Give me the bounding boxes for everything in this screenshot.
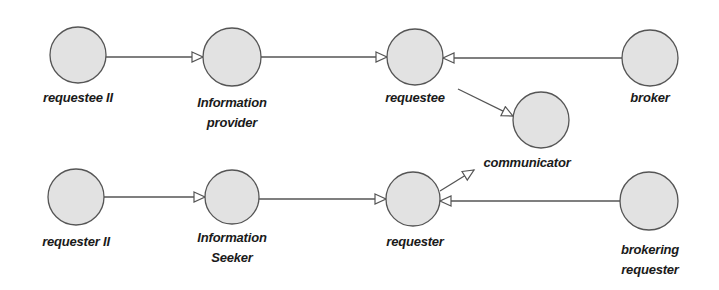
label-brokering-requester-line2: requester: [621, 260, 679, 280]
label-broker: broker: [630, 88, 669, 108]
label-requestee: requestee: [385, 88, 445, 108]
node-communicator: [513, 92, 569, 148]
label-information-seeker-line1: Information: [197, 228, 266, 248]
node-requestee: [387, 29, 443, 85]
label-information-provider: Information provider: [197, 93, 266, 133]
node-requestee-ii: [50, 27, 106, 83]
edge-requester-to-communicator: [440, 170, 474, 191]
label-requester: requester: [386, 232, 443, 252]
label-requester-ii: requester II: [42, 232, 110, 252]
node-requester: [386, 172, 440, 226]
node-information-seeker: [205, 170, 259, 224]
edge-requestee-to-communicator: [458, 89, 513, 116]
label-information-provider-line1: Information: [197, 93, 266, 113]
label-information-provider-line2: provider: [197, 113, 266, 133]
label-communicator: communicator: [483, 153, 570, 173]
node-broker: [622, 30, 678, 86]
node-information-provider: [203, 28, 261, 86]
node-requester-ii: [48, 169, 104, 225]
label-information-seeker-line2: Seeker: [197, 248, 266, 268]
node-brokering-requester: [620, 172, 678, 230]
label-brokering-requester-line1: brokering: [621, 240, 679, 260]
label-brokering-requester: brokering requester: [621, 240, 679, 280]
label-requestee-ii: requestee II: [43, 88, 113, 108]
label-information-seeker: Information Seeker: [197, 228, 266, 268]
